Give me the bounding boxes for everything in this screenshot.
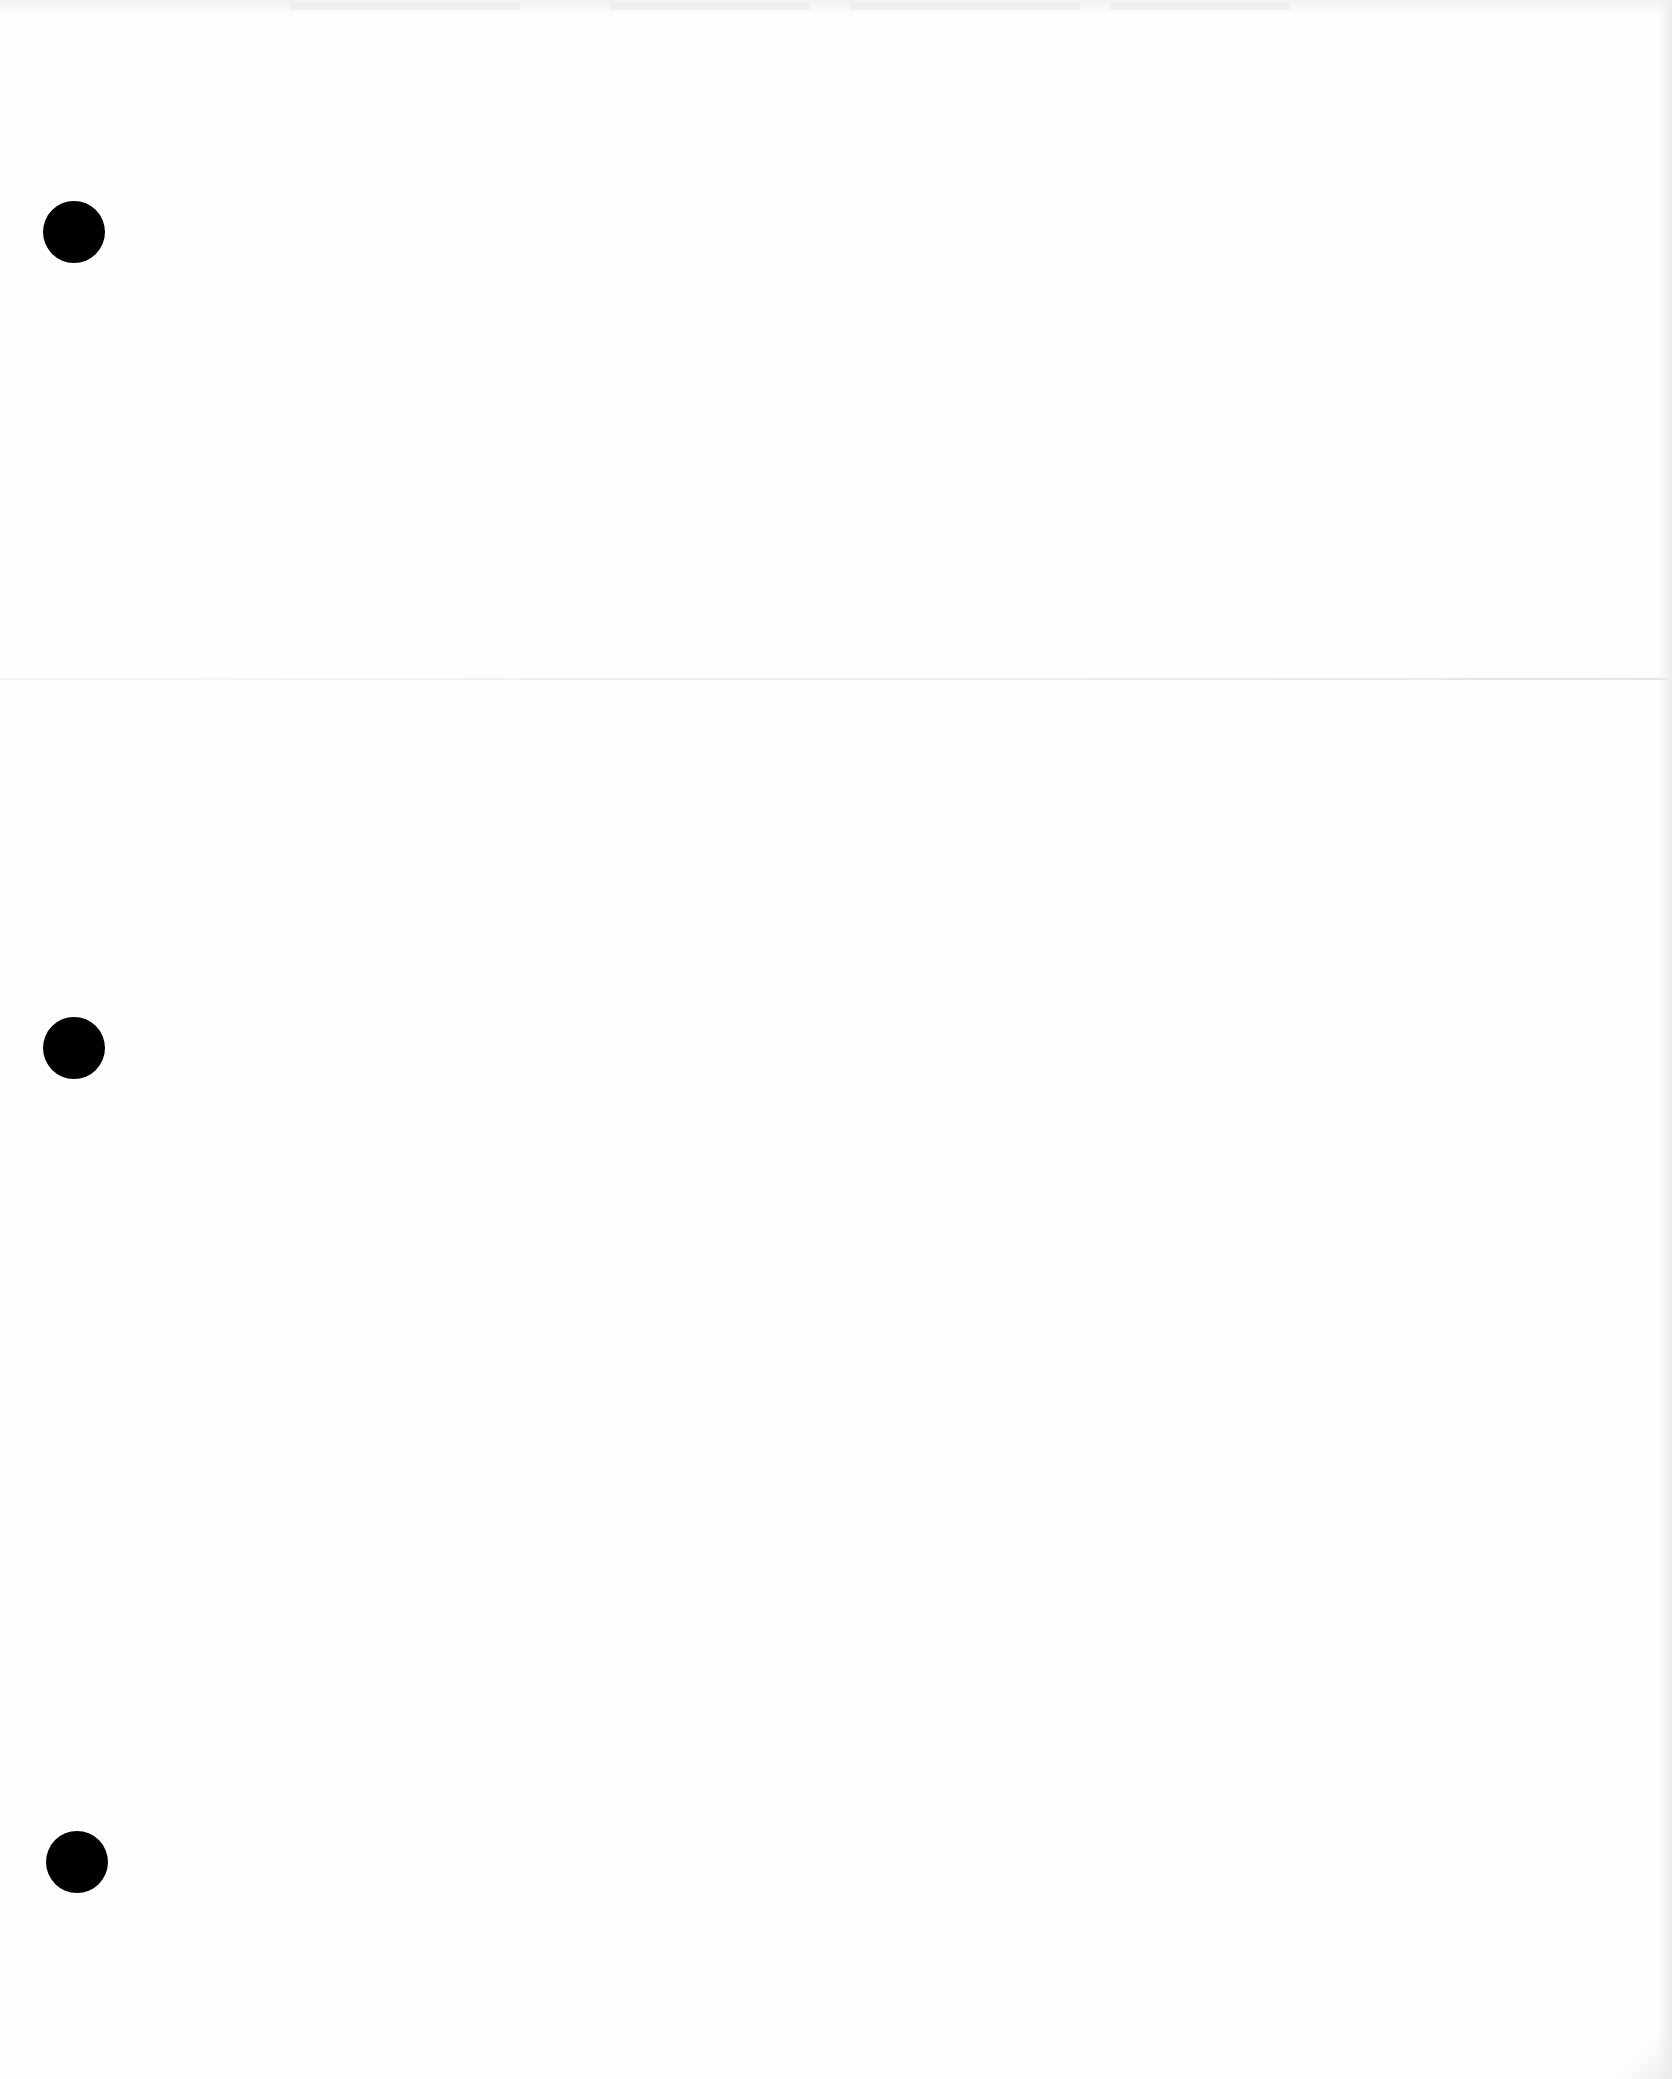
punch-hole-bottom <box>46 1831 108 1893</box>
blank-paper-page <box>0 0 1672 2079</box>
right-edge-shadow <box>1658 0 1672 2079</box>
punch-hole-middle <box>43 1017 105 1079</box>
corner-curl <box>1612 2019 1672 2079</box>
punch-hole-top <box>43 201 105 263</box>
top-edge-shadow <box>0 0 1672 14</box>
top-bleed-through <box>610 2 810 10</box>
fold-line <box>0 678 1672 680</box>
top-bleed-through <box>290 2 520 10</box>
top-bleed-through <box>1110 2 1290 10</box>
top-bleed-through <box>850 2 1080 10</box>
